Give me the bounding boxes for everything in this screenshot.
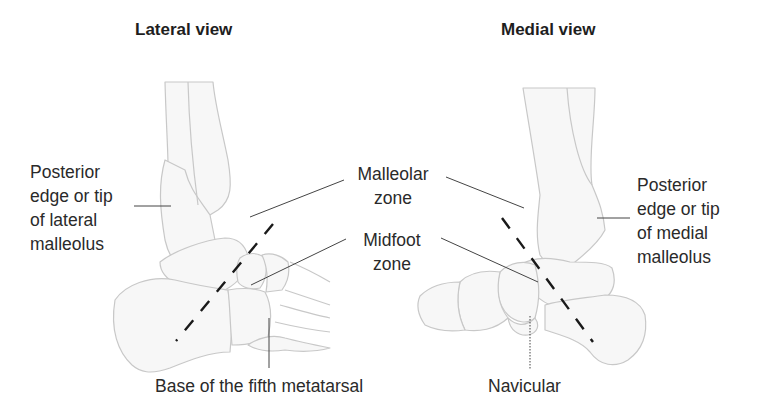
lateral-navicular	[237, 254, 267, 289]
navicular-label: Navicular	[488, 374, 561, 398]
lateral-fifth-metatarsal	[248, 336, 330, 351]
midfoot-zone-label: Midfoot zone	[352, 228, 432, 276]
label-line: malleolus	[30, 232, 113, 256]
medial-tibia-shaft	[523, 88, 605, 266]
medial-view-title: Medial view	[501, 20, 595, 40]
label-line: Midfoot	[352, 228, 432, 252]
medial-calcaneus	[545, 295, 646, 365]
label-line: Posterior	[30, 160, 113, 184]
medial-malleolus-label: Posterior edge or tip of medial malleolu…	[637, 173, 720, 269]
label-line: zone	[348, 186, 438, 210]
label-line: edge or tip	[637, 197, 720, 221]
lateral-calcaneus	[114, 279, 232, 372]
label-line: Posterior	[637, 173, 720, 197]
label-line: Malleolar	[348, 162, 438, 186]
label-line: zone	[352, 252, 432, 276]
label-line: of lateral	[30, 208, 113, 232]
label-line: of medial	[637, 221, 720, 245]
lateral-view-title: Lateral view	[135, 20, 232, 40]
lateral-malleolus-label: Posterior edge or tip of lateral malleol…	[30, 160, 113, 256]
malleolar-zone-label: Malleolar zone	[348, 162, 438, 210]
lateral-cuboid	[228, 289, 271, 345]
label-line: malleolus	[637, 245, 720, 269]
label-line: edge or tip	[30, 184, 113, 208]
fifth-metatarsal-label: Base of the fifth metatarsal	[155, 374, 363, 398]
